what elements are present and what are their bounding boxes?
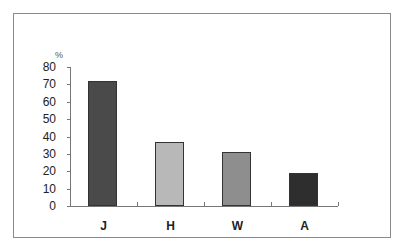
x-tick-label: H	[156, 219, 186, 233]
x-tick-label: W	[223, 219, 253, 233]
y-tick-label: 70	[30, 78, 56, 90]
y-axis	[70, 67, 71, 206]
y-tick	[67, 119, 70, 120]
y-tick-label: 40	[30, 131, 56, 143]
y-tick	[67, 189, 70, 190]
y-tick-label: 0	[30, 200, 56, 212]
y-tick-label: 50	[30, 113, 56, 125]
bar-a	[289, 173, 318, 206]
y-tick	[67, 154, 70, 155]
y-tick	[67, 206, 70, 207]
x-tick-label: A	[290, 219, 320, 233]
y-tick-label: 30	[30, 148, 56, 160]
y-tick	[67, 84, 70, 85]
y-tick	[67, 102, 70, 103]
x-tick	[204, 202, 205, 206]
y-axis-unit-label: %	[55, 50, 63, 60]
x-tick	[338, 202, 339, 206]
x-tick	[137, 202, 138, 206]
y-tick-label: 20	[30, 165, 56, 177]
x-tick	[271, 202, 272, 206]
x-tick-label: J	[89, 219, 119, 233]
bar-h	[155, 142, 184, 206]
y-tick-label: 60	[30, 96, 56, 108]
x-axis	[70, 206, 338, 207]
y-tick-label: 80	[30, 61, 56, 73]
bar-j	[88, 81, 117, 206]
y-tick-label: 10	[30, 183, 56, 195]
y-tick	[67, 171, 70, 172]
bar-chart: % 01020304050607080JHWA	[0, 0, 400, 251]
y-tick	[67, 67, 70, 68]
bar-w	[222, 152, 251, 206]
y-tick	[67, 137, 70, 138]
